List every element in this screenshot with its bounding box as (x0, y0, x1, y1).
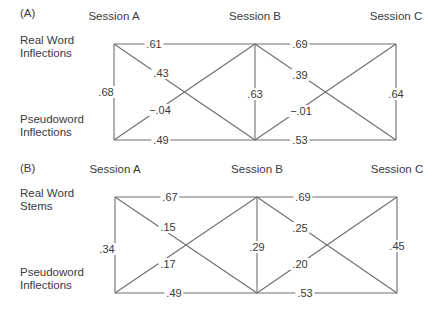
row-label: Pseudoword (20, 113, 84, 126)
correlation-value: .53 (290, 134, 309, 146)
session-header: Session B (231, 163, 283, 176)
correlation-value: .29 (247, 241, 266, 253)
correlation-value: .69 (290, 38, 309, 50)
correlation-value: .45 (387, 240, 406, 252)
correlation-value: .67 (160, 191, 179, 203)
correlation-value: .61 (144, 38, 163, 50)
correlation-value: .34 (97, 243, 116, 255)
correlation-value: .43 (151, 67, 170, 79)
correlation-value: .63 (245, 88, 264, 100)
correlation-value: .15 (158, 221, 177, 233)
correlation-value: .68 (96, 86, 115, 98)
session-header: Session A (88, 10, 139, 23)
correlation-value: −.01 (288, 105, 314, 117)
correlation-value: .53 (295, 287, 314, 299)
session-header: Session C (371, 163, 423, 176)
session-header: Session A (89, 163, 140, 176)
row-label: Inflections (20, 126, 72, 139)
correlation-value: .49 (164, 287, 183, 299)
row-label: Inflections (20, 47, 72, 60)
row-label: Inflections (20, 279, 72, 292)
session-header: Session C (370, 10, 422, 23)
correlation-value: .69 (293, 191, 312, 203)
correlation-value: .39 (290, 69, 309, 81)
row-label: Real Word (20, 187, 74, 200)
correlation-value: .49 (151, 134, 170, 146)
session-header: Session B (229, 10, 281, 23)
row-label: Pseudoword (20, 266, 84, 279)
correlation-value: .20 (290, 258, 309, 270)
panel-label: (B) (20, 162, 35, 175)
row-label: Stems (20, 200, 53, 213)
correlation-value: .25 (290, 222, 309, 234)
row-label: Real Word (20, 34, 74, 47)
correlation-value: −.04 (147, 104, 173, 116)
correlation-value: .64 (386, 88, 405, 100)
panel-label: (A) (20, 7, 35, 20)
correlation-value: .17 (158, 258, 177, 270)
